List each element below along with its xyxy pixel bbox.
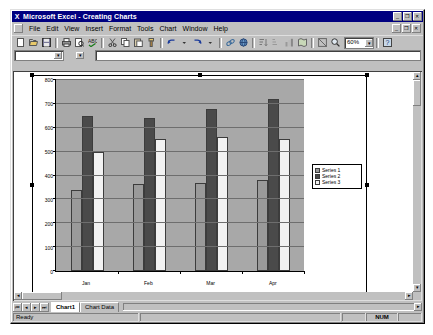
menu-item-tools[interactable]: Tools xyxy=(134,25,156,32)
bar-series-1-jan[interactable] xyxy=(71,190,82,271)
doc-minimize-button[interactable]: _ xyxy=(392,24,401,33)
status-slot-1 xyxy=(342,313,366,322)
chart-wizard-icon[interactable] xyxy=(283,37,295,48)
svg-text:?: ? xyxy=(385,39,389,46)
doc-close-button[interactable]: ✕ xyxy=(412,24,421,33)
undo-icon[interactable] xyxy=(165,37,177,48)
sort-ascending-icon[interactable] xyxy=(257,37,269,48)
chevron-down-icon[interactable]: ▾ xyxy=(365,39,373,47)
tab-prev-button[interactable]: ◂ xyxy=(22,303,31,312)
bar-series-3-feb[interactable] xyxy=(155,139,166,272)
save-icon[interactable] xyxy=(40,37,52,48)
map-icon[interactable] xyxy=(296,37,308,48)
copy-icon[interactable] xyxy=(119,37,131,48)
chart-legend[interactable]: Series 1Series 2Series 3 xyxy=(312,164,362,189)
gridline xyxy=(56,103,304,104)
bar-series-2-jan[interactable] xyxy=(82,116,93,271)
undo-dropdown-icon[interactable] xyxy=(178,37,190,48)
legend-entry[interactable]: Series 3 xyxy=(315,180,359,185)
menu-item-insert[interactable]: Insert xyxy=(82,25,106,32)
tab-split-scroll[interactable]: ▸ xyxy=(123,303,422,311)
y-tick-label: 400 xyxy=(45,174,53,179)
office-assistant-icon[interactable]: ? xyxy=(381,37,393,48)
print-icon[interactable] xyxy=(60,37,72,48)
menu-item-help[interactable]: Help xyxy=(210,25,230,32)
scroll-right-button[interactable]: ▸ xyxy=(405,292,413,300)
bar-series-2-feb[interactable] xyxy=(144,118,155,271)
insert-hyperlink-icon[interactable] xyxy=(224,37,236,48)
horizontal-scroll-thumb[interactable] xyxy=(22,292,62,300)
cut-icon[interactable] xyxy=(106,37,118,48)
x-tick-label: Mar xyxy=(180,280,242,286)
bar-series-1-apr[interactable] xyxy=(257,180,268,271)
gridline xyxy=(56,151,304,152)
standard-toolbar: ABC 60% ▾ ? xyxy=(12,35,423,49)
redo-dropdown-icon[interactable] xyxy=(204,37,216,48)
vertical-scroll-thumb[interactable] xyxy=(413,80,421,106)
status-bar: Ready NUM xyxy=(13,312,422,322)
plot-area[interactable] xyxy=(55,80,304,272)
name-box[interactable]: ▾ xyxy=(14,50,64,61)
formula-input[interactable] xyxy=(95,50,421,61)
bar-series-3-jan[interactable] xyxy=(93,152,104,271)
vertical-scrollbar[interactable]: ▴ ▾ xyxy=(413,72,421,292)
menu-item-edit[interactable]: Edit xyxy=(43,25,61,32)
scroll-up-button[interactable]: ▴ xyxy=(413,72,421,80)
bar-series-3-apr[interactable] xyxy=(279,139,290,272)
web-toolbar-icon[interactable] xyxy=(237,37,249,48)
toolbar-separator xyxy=(311,38,314,48)
chart-object[interactable]: 0100200300400500600700800 JanFebMarApr S… xyxy=(32,75,367,295)
redo-icon[interactable] xyxy=(191,37,203,48)
tab-next-button[interactable]: ▸ xyxy=(31,303,40,312)
tab-first-button[interactable]: ⏮ xyxy=(13,303,22,312)
horizontal-scrollbar[interactable]: ◂ ▸ xyxy=(14,292,413,300)
menu-item-file[interactable]: File xyxy=(26,25,43,32)
y-axis-tick xyxy=(53,175,56,176)
sheet-tab-chart-data[interactable]: Chart Data xyxy=(80,302,119,312)
zoom-value: 60% xyxy=(347,38,359,47)
open-icon[interactable] xyxy=(27,37,39,48)
bar-series-1-feb[interactable] xyxy=(133,184,144,271)
tab-scroll-right-button[interactable]: ▸ xyxy=(414,303,422,311)
bar-series-1-mar[interactable] xyxy=(195,183,206,271)
gridline xyxy=(56,175,304,176)
app-restore-button[interactable]: ❐ xyxy=(403,12,412,21)
zoom-magnifier-icon[interactable] xyxy=(329,37,341,48)
doc-restore-button[interactable]: ❐ xyxy=(402,24,411,33)
menu-item-view[interactable]: View xyxy=(61,25,82,32)
chart-sheet[interactable]: 0100200300400500600700800 JanFebMarApr S… xyxy=(14,72,413,292)
scrollbar-corner xyxy=(413,292,421,300)
status-filler xyxy=(140,313,341,322)
sheet-tab-chart1[interactable]: Chart1 xyxy=(51,302,80,312)
menu-item-format[interactable]: Format xyxy=(106,25,134,32)
zoom-combobox[interactable]: 60% ▾ xyxy=(344,37,374,49)
legend-color-key xyxy=(315,168,320,173)
app-close-button[interactable]: ✕ xyxy=(413,12,422,21)
chevron-down-icon[interactable]: ▾ xyxy=(54,52,62,59)
format-painter-icon[interactable] xyxy=(145,37,157,48)
menu-item-chart[interactable]: Chart xyxy=(156,25,179,32)
x-axis-tick xyxy=(242,271,243,274)
document-area: 0100200300400500600700800 JanFebMarApr S… xyxy=(13,71,422,301)
menu-item-window[interactable]: Window xyxy=(180,25,211,32)
paste-icon[interactable] xyxy=(132,37,144,48)
scroll-down-button[interactable]: ▾ xyxy=(413,284,421,292)
tab-last-button[interactable]: ⏭ xyxy=(40,303,49,312)
tab-nav-buttons: ⏮ ◂ ▸ ⏭ xyxy=(13,303,49,312)
scroll-left-button[interactable]: ◂ xyxy=(14,292,22,300)
sort-descending-icon[interactable] xyxy=(270,37,282,48)
spelling-icon[interactable]: ABC xyxy=(86,37,98,48)
new-icon[interactable] xyxy=(14,37,26,48)
formula-function-area: ▾ xyxy=(68,51,92,60)
menu-bar: File Edit View Insert Format Tools Chart… xyxy=(12,23,423,34)
toolbar-separator xyxy=(160,38,163,48)
y-axis-tick xyxy=(53,79,56,80)
document-control-icon[interactable] xyxy=(14,24,23,33)
drawing-icon[interactable] xyxy=(316,37,328,48)
chevron-down-icon[interactable]: ▾ xyxy=(76,52,84,59)
bar-series-3-mar[interactable] xyxy=(217,137,228,271)
print-preview-icon[interactable] xyxy=(73,37,85,48)
app-minimize-button[interactable]: _ xyxy=(393,12,402,21)
sheet-tab-bar: ⏮ ◂ ▸ ⏭ Chart1 Chart Data ▸ xyxy=(13,302,422,312)
y-tick-label: 600 xyxy=(45,126,53,131)
